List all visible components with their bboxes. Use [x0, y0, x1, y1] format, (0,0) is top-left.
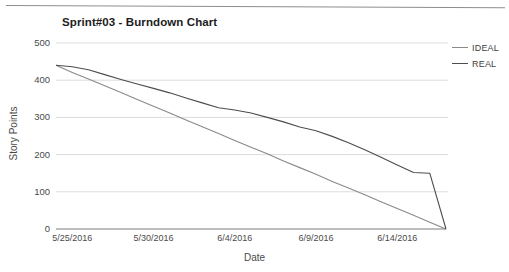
x-tick-label: 5/25/2016 [52, 233, 92, 243]
y-tick-label: 500 [16, 37, 50, 48]
legend-label: IDEAL [472, 43, 499, 53]
chart-legend: IDEALREAL [452, 41, 508, 73]
x-tick-label: 5/30/2016 [133, 233, 173, 243]
legend-swatch-icon [452, 63, 468, 64]
chart-plot-area [0, 0, 509, 272]
chart-series [56, 65, 446, 229]
series-line-ideal [56, 65, 446, 229]
y-tick-label: 400 [16, 74, 50, 85]
x-tick-label: 6/9/2016 [298, 233, 333, 243]
x-tick-label: 6/14/2016 [377, 233, 417, 243]
legend-swatch-icon [452, 47, 468, 48]
burndown-chart: Sprint#03 - Burndown Chart 0100200300400… [0, 0, 509, 272]
y-tick-label: 100 [16, 186, 50, 197]
y-axis-title: Story Points [8, 99, 19, 169]
chart-gridlines [56, 43, 448, 192]
legend-item-ideal[interactable]: IDEAL [452, 41, 508, 54]
x-tick-label: 6/4/2016 [217, 233, 252, 243]
y-tick-label: 200 [16, 149, 50, 160]
y-tick-label: 0 [16, 223, 50, 234]
y-tick-label: 300 [16, 111, 50, 122]
x-axis-title: Date [0, 252, 509, 263]
legend-item-real[interactable]: REAL [452, 57, 508, 70]
legend-label: REAL [472, 59, 496, 69]
